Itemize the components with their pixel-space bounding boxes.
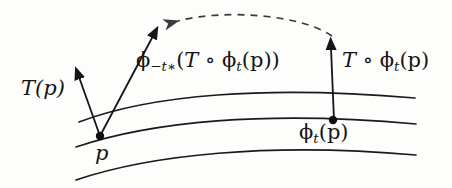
close-paren: ) [272,48,280,72]
T-glyph: T [342,48,356,72]
phi-glyph: ϕ [299,120,313,144]
arg-p: (p) [242,48,272,72]
point-p [96,132,104,140]
label-tangent-at-p: T(p) [21,78,65,99]
middle-flow-line [76,118,416,147]
label-base-point: p [95,143,108,164]
transported-vector [331,48,334,120]
label-transported-vector: T ∘ ϕt(p) [342,50,429,73]
phi-glyph-inner: ϕ [222,48,236,72]
diagram-canvas: T(p) ϕ−t∗(T ∘ ϕt(p)) T ∘ ϕt(p) ϕt(p) p [0,0,452,188]
diagram-vector-layer [0,0,452,188]
pushforward-transport-arc [178,15,332,36]
phi-subscript-minus-t-star: −t∗ [150,59,176,74]
T-of-p-vector [79,77,100,136]
label-base-point-text: p [95,141,108,165]
compose-icon: ∘ [363,48,373,72]
upper-flow-line [79,92,415,122]
phi-glyph: ϕ [380,48,394,72]
phi-glyph: ϕ [136,48,150,72]
T-glyph: T [184,48,198,72]
compose-icon: ∘ [205,48,215,72]
arg-p: (p) [319,120,349,144]
label-pushforward-vector: ϕ−t∗(T ∘ ϕt(p)) [136,50,280,73]
arg-p: (p) [399,48,429,72]
label-tangent-at-p-text: T(p) [21,76,65,100]
lower-flow-line [76,150,416,180]
label-flowed-point: ϕt(p) [299,122,349,145]
